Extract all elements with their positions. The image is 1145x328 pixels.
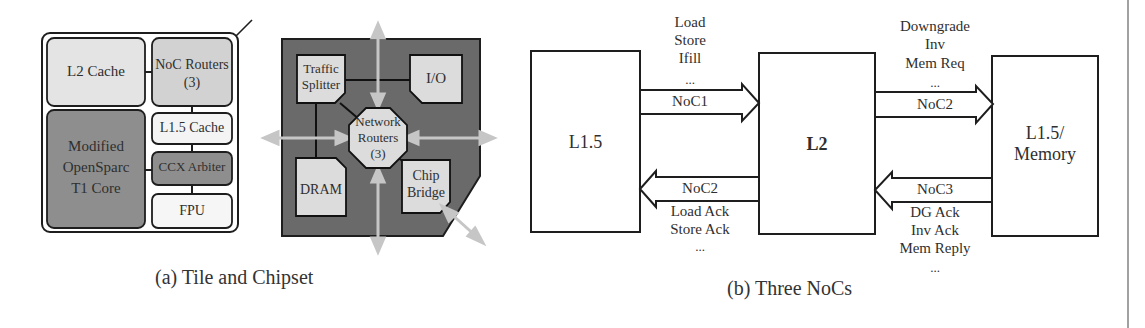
l15-cache-label: L1.5 Cache <box>152 120 232 135</box>
l2-cache-label: L2 Cache <box>47 63 145 79</box>
traffic-splitter-label-line2: Splitter <box>297 78 345 92</box>
noc2-left-msg-more: ... <box>650 240 750 254</box>
chip-bridge-label-line2: Bridge <box>402 185 450 200</box>
noc2-left-msg-store-ack: Store Ack <box>650 221 750 237</box>
noc2-left-msg-load-ack: Load Ack <box>650 203 750 219</box>
l2-box-label: L2 <box>759 135 875 154</box>
noc1-label: NoC1 <box>650 93 730 109</box>
l15-memory-label-line2: Memory <box>992 145 1098 164</box>
core-label-line1: Modified <box>47 138 145 154</box>
io-label: I/O <box>410 70 462 86</box>
noc1-msg-more: ... <box>650 73 730 87</box>
noc2-right-msg-mem-req: Mem Req <box>885 55 985 71</box>
noc2-right-msg-downgrade: Downgrade <box>885 18 985 34</box>
noc3-msg-mem-reply: Mem Reply <box>880 240 990 256</box>
noc3-msg-dg-ack: DG Ack <box>880 204 990 220</box>
tile-pointer-line <box>236 20 252 36</box>
l15-memory-label-line1: L1.5/ <box>992 124 1098 143</box>
noc3-msg-more: ... <box>880 261 990 275</box>
noc-routers-label: NoC Routers <box>152 57 232 72</box>
noc2-right-msg-more: ... <box>885 76 985 90</box>
noc2-right-label: NoC2 <box>885 96 985 112</box>
dram-label: DRAM <box>294 182 348 197</box>
caption-a: (a) Tile and Chipset <box>155 266 313 289</box>
noc2-right-msg-inv: Inv <box>885 36 985 52</box>
caption-b: (b) Three NoCs <box>727 277 852 300</box>
noc1-msg-store: Store <box>650 32 730 48</box>
core-label-line3: T1 Core <box>47 180 145 196</box>
l15-box-label: L1.5 <box>531 133 640 152</box>
noc1-msg-load: Load <box>650 14 730 30</box>
ccx-arbiter-label: CCX Arbiter <box>150 160 234 174</box>
fpu-label: FPU <box>152 203 232 218</box>
network-routers-label-line2: Routers <box>349 131 407 145</box>
noc1-msg-ifill: Ifill <box>650 50 730 66</box>
traffic-splitter-label-line1: Traffic <box>297 62 345 76</box>
chip-bridge-label-line1: Chip <box>402 168 450 183</box>
network-routers-label-line3: (3) <box>349 147 407 161</box>
network-routers-label-line1: Network <box>349 115 407 129</box>
noc3-label: NoC3 <box>885 181 985 197</box>
noc3-msg-inv-ack: Inv Ack <box>880 222 990 238</box>
core-label-line2: OpenSparc <box>47 159 145 175</box>
noc-routers-count: (3) <box>152 75 232 90</box>
noc2-left-label: NoC2 <box>655 180 745 196</box>
